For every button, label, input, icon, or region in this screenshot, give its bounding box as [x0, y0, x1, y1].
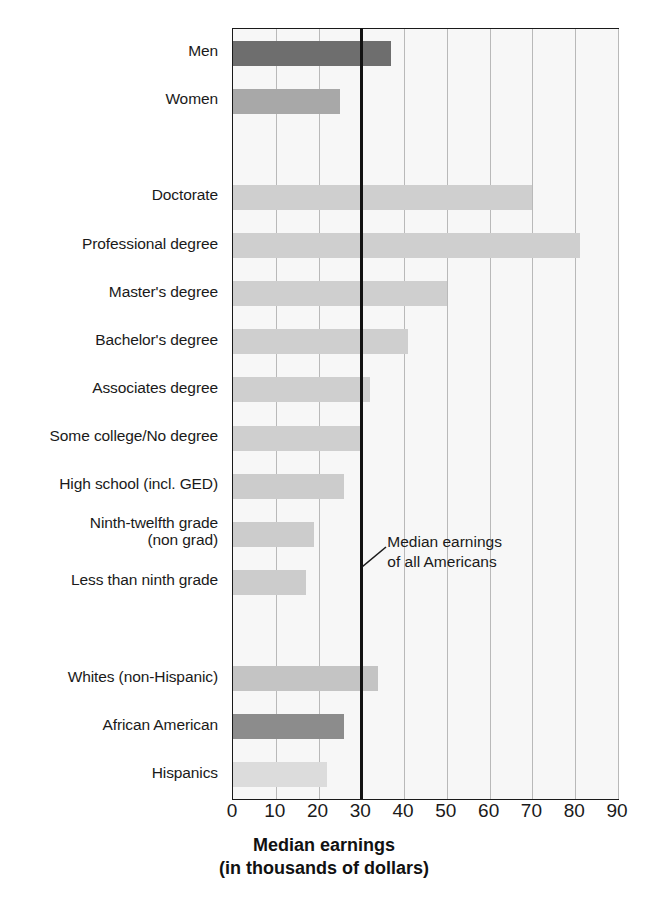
category-label-women: Women: [165, 91, 218, 108]
category-label-high-school-incl-ged: High school (incl. GED): [59, 476, 218, 493]
median-earnings-bar-chart: MenWomenDoctorateProfessional degreeMast…: [0, 0, 648, 900]
bar-master-s-degree: [233, 281, 447, 306]
median-reference-line: [360, 28, 362, 800]
x-axis-title-line2: (in thousands of dollars): [0, 857, 648, 880]
plot-area: Median earningsof all Americans: [232, 28, 619, 800]
category-axis-labels: MenWomenDoctorateProfessional degreeMast…: [0, 28, 226, 798]
gridline-40: [404, 29, 405, 799]
x-tick-label-50: 50: [435, 800, 456, 822]
gridline-50: [447, 29, 448, 799]
category-label-bachelor-s-degree: Bachelor's degree: [95, 332, 218, 349]
x-tick-label-30: 30: [350, 800, 371, 822]
median-annotation-line2: of all Americans: [387, 553, 496, 571]
x-tick-label-40: 40: [393, 800, 414, 822]
gridline-70: [532, 29, 533, 799]
gridline-60: [490, 29, 491, 799]
x-tick-label-70: 70: [521, 800, 542, 822]
bar-associates-degree: [233, 377, 370, 402]
category-label-associates-degree: Associates degree: [92, 380, 218, 397]
x-axis-tick-labels: 0102030405060708090: [232, 800, 617, 826]
x-tick-label-90: 90: [606, 800, 627, 822]
x-tick-label-0: 0: [227, 800, 238, 822]
bar-bachelor-s-degree: [233, 329, 408, 354]
bar-whites-non-hispanic: [233, 666, 378, 691]
bar-hispanics: [233, 762, 327, 787]
x-tick-label-80: 80: [564, 800, 585, 822]
x-axis-title-line1: Median earnings: [0, 834, 648, 857]
bar-some-college-no-degree: [233, 426, 361, 451]
bar-women: [233, 89, 340, 114]
x-tick-label-10: 10: [264, 800, 285, 822]
category-label-master-s-degree: Master's degree: [109, 284, 218, 301]
category-label-african-american: African American: [102, 717, 218, 734]
x-tick-label-60: 60: [478, 800, 499, 822]
bar-ninth-twelfth-grade-non-grad: [233, 522, 314, 547]
category-label-professional-degree: Professional degree: [82, 236, 218, 253]
category-label-men: Men: [188, 43, 218, 60]
category-label-whites-non-hispanic: Whites (non-Hispanic): [68, 669, 218, 686]
category-label-doctorate: Doctorate: [152, 187, 218, 204]
category-label-hispanics: Hispanics: [152, 765, 218, 782]
bar-professional-degree: [233, 233, 580, 258]
bar-high-school-incl-ged: [233, 474, 344, 499]
category-label-ninth-twelfth-grade-non-grad: Ninth-twelfth grade (non grad): [90, 515, 218, 548]
bar-doctorate: [233, 185, 532, 210]
category-label-less-than-ninth-grade: Less than ninth grade: [71, 572, 218, 589]
bar-men: [233, 41, 391, 66]
x-tick-label-20: 20: [307, 800, 328, 822]
bar-less-than-ninth-grade: [233, 570, 306, 595]
gridline-90: [618, 29, 619, 799]
median-annotation-line1: Median earnings: [387, 533, 502, 551]
gridline-80: [575, 29, 576, 799]
bar-african-american: [233, 714, 344, 739]
category-label-some-college-no-degree: Some college/No degree: [50, 428, 218, 445]
